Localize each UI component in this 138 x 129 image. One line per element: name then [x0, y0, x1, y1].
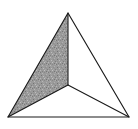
triangle-figure: Shaded subdivided triangle An outer tria…: [0, 0, 138, 129]
figure-container: Shaded subdivided triangle An outer tria…: [0, 0, 138, 129]
